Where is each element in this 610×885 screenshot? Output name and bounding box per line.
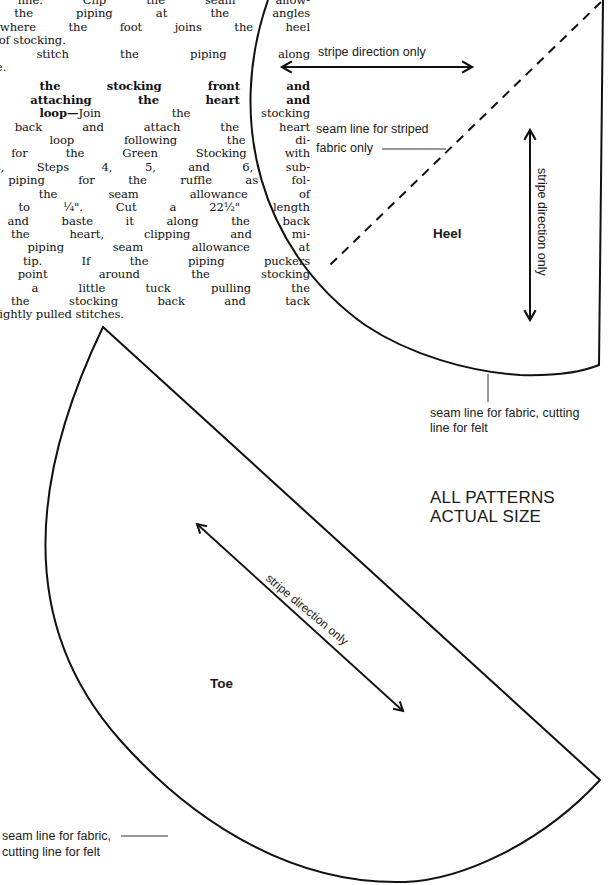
heel-striped-seam-label-line1: seam line for striped bbox=[316, 122, 429, 137]
toe-title: Toe bbox=[210, 676, 233, 691]
heel-fabric-seam-label-line2: line for felt bbox=[430, 421, 488, 436]
heel-title: Heel bbox=[433, 226, 462, 241]
note-line2: ACTUAL SIZE bbox=[430, 507, 541, 526]
heel-fabric-seam-label-line1: seam line for fabric, cutting bbox=[430, 406, 579, 421]
note-line1: ALL PATTERNS bbox=[430, 488, 555, 507]
pattern-drawings bbox=[0, 0, 610, 885]
heel-stripe-label-horizontal: stripe direction only bbox=[318, 45, 426, 60]
heel-pattern bbox=[250, 0, 603, 402]
heel-outline bbox=[250, 0, 603, 375]
toe-fabric-seam-label-line1: seam line for fabric, bbox=[2, 829, 111, 844]
heel-stripe-label-vertical: stripe direction only bbox=[534, 168, 549, 276]
heel-striped-seam-label-line2: fabric only bbox=[316, 141, 373, 156]
toe-fabric-seam-label-line2: cutting line for felt bbox=[2, 845, 100, 860]
